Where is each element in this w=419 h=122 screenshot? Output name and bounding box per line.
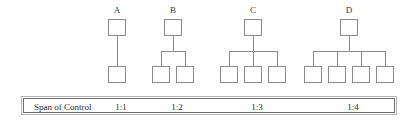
connector-drop-c-1 — [229, 51, 230, 66]
span-of-control-bar-inner: Span of Control 1:1 1:2 1:3 1:4 — [23, 98, 395, 113]
span-of-control-title: Span of Control — [34, 102, 92, 112]
tree-label-c: C — [213, 5, 293, 15]
span-ratio-c: 1:3 — [242, 102, 272, 112]
manager-node-c — [244, 19, 262, 36]
tree-group-a: A — [97, 0, 137, 90]
tree-group-b: B — [145, 0, 201, 90]
connector-drop-d-3 — [361, 51, 362, 66]
connector-vertical-a — [117, 36, 118, 66]
span-of-control-bar: Span of Control 1:1 1:2 1:3 1:4 — [21, 96, 397, 115]
connector-drop-d-1 — [313, 51, 314, 66]
tree-group-d: D — [297, 0, 401, 90]
connector-stem-d — [349, 36, 350, 51]
connector-drop-d-4 — [385, 51, 386, 66]
connector-stem-b — [173, 36, 174, 51]
tree-label-a: A — [97, 5, 137, 15]
connector-drop-b-1 — [161, 51, 162, 66]
tree-label-d: D — [297, 5, 401, 15]
span-ratio-b: 1:2 — [162, 102, 192, 112]
span-ratio-d: 1:4 — [338, 102, 368, 112]
subordinate-node-c-2 — [244, 66, 262, 83]
subordinate-node-c-3 — [268, 66, 286, 83]
subordinate-node-c-1 — [220, 66, 238, 83]
tree-group-c: C — [213, 0, 293, 90]
subordinate-node-d-4 — [376, 66, 394, 83]
subordinate-node-d-2 — [328, 66, 346, 83]
subordinate-node-d-3 — [352, 66, 370, 83]
subordinate-node-b-2 — [176, 66, 194, 83]
connector-drop-c-2 — [253, 51, 254, 66]
subordinate-node-b-1 — [152, 66, 170, 83]
connector-drop-d-2 — [337, 51, 338, 66]
subordinate-node-a-1 — [108, 66, 126, 83]
connector-horizontal-d — [313, 51, 386, 52]
manager-node-d — [340, 19, 358, 36]
manager-node-b — [164, 19, 182, 36]
connector-stem-c — [253, 36, 254, 51]
manager-node-a — [108, 19, 126, 36]
tree-label-b: B — [145, 5, 201, 15]
span-of-control-figure: A B C D — [0, 0, 419, 122]
subordinate-node-d-1 — [304, 66, 322, 83]
connector-drop-c-3 — [277, 51, 278, 66]
span-ratio-a: 1:1 — [106, 102, 136, 112]
connector-drop-b-2 — [185, 51, 186, 66]
connector-horizontal-b — [161, 51, 186, 52]
